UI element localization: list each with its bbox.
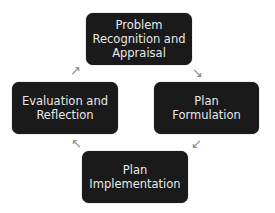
node-plan-formulation: Plan Formulation — [154, 82, 259, 134]
arrow-up-left-icon: ↖ — [71, 137, 82, 150]
node-label: Evaluation and Reflection — [22, 94, 108, 122]
node-plan-implementation: Plan Implementation — [82, 151, 188, 203]
arrow-up-right-icon: ↗ — [70, 64, 81, 77]
node-label: Problem Recognition and Appraisal — [92, 18, 185, 60]
node-label: Plan Formulation — [172, 94, 241, 122]
node-evaluation-reflection: Evaluation and Reflection — [12, 82, 118, 134]
arrow-down-left-icon: ↙ — [191, 137, 202, 150]
arrow-down-right-icon: ↘ — [192, 66, 203, 79]
node-label: Plan Implementation — [89, 163, 180, 191]
node-problem-recognition: Problem Recognition and Appraisal — [86, 13, 192, 65]
